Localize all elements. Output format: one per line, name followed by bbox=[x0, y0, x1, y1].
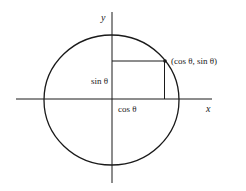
y-axis-label: y bbox=[100, 12, 106, 23]
point-label: (cos θ, sin θ) bbox=[171, 56, 217, 66]
x-axis-label: x bbox=[205, 103, 211, 114]
point-marker bbox=[163, 59, 167, 63]
cos-theta-label: cos θ bbox=[118, 104, 137, 114]
sin-theta-label: sin θ bbox=[91, 76, 108, 86]
unit-circle-diagram: y x (cos θ, sin θ) sin θ cos θ bbox=[0, 0, 246, 191]
